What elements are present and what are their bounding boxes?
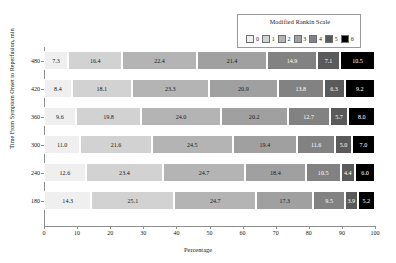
legend-item-0[interactable]: 0	[246, 35, 259, 43]
legend-label-1: 1	[272, 35, 275, 43]
legend-label-0: 0	[256, 35, 259, 43]
bar-segment-mrs-6[interactable]: 9.2	[345, 79, 375, 98]
bar-row: 12.623.424.718.410.54.46.0	[44, 163, 375, 182]
legend-title: Modified Rankin Scale	[238, 18, 362, 25]
legend-swatch-2	[278, 35, 286, 43]
bar-segment-mrs-0[interactable]: 8.4	[44, 79, 72, 98]
y-tick-label: 360	[16, 114, 40, 120]
x-tick-label: 80	[306, 230, 312, 236]
x-axis-label: Percentage	[0, 246, 396, 253]
bar-segment-mrs-5[interactable]: 6.3	[324, 79, 345, 98]
bar-segment-mrs-6[interactable]: 5.2	[358, 191, 375, 210]
y-tick-label: 240	[16, 170, 40, 176]
bar-segment-mrs-4[interactable]: 13.8	[278, 79, 324, 98]
bar-segment-mrs-1[interactable]: 21.6	[80, 135, 151, 154]
y-axis-label: Time From Symptom Onset to Reperfusion, …	[8, 14, 15, 164]
legend-swatch-6	[341, 35, 349, 43]
bar-segment-mrs-0[interactable]: 7.3	[44, 51, 68, 70]
legend-swatch-0	[246, 35, 254, 43]
y-tick-label: 300	[16, 142, 40, 148]
bar-segment-mrs-3[interactable]: 20.2	[221, 107, 288, 126]
legend-swatch-1	[262, 35, 270, 43]
bar-segment-mrs-3[interactable]: 17.3	[256, 191, 313, 210]
legend-label-3: 3	[303, 35, 306, 43]
x-tick-label: 70	[273, 230, 279, 236]
bar-segment-mrs-6[interactable]: 8.0	[348, 107, 374, 126]
legend-swatch-5	[325, 35, 333, 43]
bar-segment-mrs-4[interactable]: 14.9	[267, 51, 316, 70]
x-tick-label: 100	[371, 230, 380, 236]
x-tick-label: 0	[43, 230, 46, 236]
bar-segment-mrs-0[interactable]: 12.6	[44, 163, 86, 182]
bar-segment-mrs-5[interactable]: 5.7	[330, 107, 349, 126]
bar-segment-mrs-5[interactable]: 3.9	[345, 191, 358, 210]
bar-segment-mrs-1[interactable]: 23.4	[86, 163, 163, 182]
legend-label-5: 5	[335, 35, 338, 43]
bar-segment-mrs-4[interactable]: 12.7	[288, 107, 330, 126]
x-tick	[342, 226, 343, 229]
legend-label-4: 4	[319, 35, 322, 43]
bar-segment-mrs-6[interactable]: 10.5	[340, 51, 375, 70]
bar-segment-mrs-2[interactable]: 24.0	[141, 107, 220, 126]
x-tick	[176, 226, 177, 229]
bar-segment-mrs-6[interactable]: 7.0	[352, 135, 375, 154]
bar-segment-mrs-2[interactable]: 24.5	[152, 135, 233, 154]
legend-items: 0123456	[238, 32, 362, 46]
bar-row: 9.619.824.020.212.75.78.0	[44, 107, 375, 126]
x-tick	[110, 226, 111, 229]
x-tick-label: 20	[107, 230, 113, 236]
x-tick-label: 50	[207, 230, 213, 236]
bar-segment-mrs-2[interactable]: 24.7	[163, 163, 245, 182]
bar-segment-mrs-3[interactable]: 20.9	[209, 79, 278, 98]
legend-item-2[interactable]: 2	[278, 35, 291, 43]
bar-segment-mrs-0[interactable]: 11.0	[44, 135, 80, 154]
bar-segment-mrs-2[interactable]: 24.7	[174, 191, 256, 210]
x-tick	[309, 226, 310, 229]
x-tick	[243, 226, 244, 229]
x-tick-label: 90	[339, 230, 345, 236]
legend-label-2: 2	[288, 35, 291, 43]
legend-item-1[interactable]: 1	[262, 35, 275, 43]
legend-item-5[interactable]: 5	[325, 35, 338, 43]
bar-row: 11.021.624.519.411.65.07.0	[44, 135, 375, 154]
bar-segment-mrs-2[interactable]: 22.4	[122, 51, 196, 70]
x-tick	[143, 226, 144, 229]
bar-segment-mrs-4[interactable]: 11.6	[297, 135, 335, 154]
bar-row: 8.418.123.320.913.86.39.2	[44, 79, 375, 98]
bar-segment-mrs-6[interactable]: 6.0	[355, 163, 375, 182]
bar-segment-mrs-1[interactable]: 19.8	[76, 107, 142, 126]
x-tick-label: 40	[173, 230, 179, 236]
legend: Modified Rankin Scale 0123456	[237, 14, 361, 48]
legend-item-3[interactable]: 3	[294, 35, 307, 43]
bar-segment-mrs-1[interactable]: 25.1	[91, 191, 174, 210]
bar-segment-mrs-5[interactable]: 5.0	[335, 135, 352, 154]
bar-segment-mrs-3[interactable]: 21.4	[197, 51, 268, 70]
x-tick	[276, 226, 277, 229]
bar-segment-mrs-2[interactable]: 23.3	[132, 79, 209, 98]
bar-segment-mrs-0[interactable]: 14.3	[44, 191, 91, 210]
y-tick-label: 480	[16, 58, 40, 64]
x-tick	[210, 226, 211, 229]
bar-segment-mrs-0[interactable]: 9.6	[44, 107, 76, 126]
x-tick	[77, 226, 78, 229]
x-tick	[44, 226, 45, 229]
bar-segment-mrs-3[interactable]: 19.4	[233, 135, 297, 154]
bar-segment-mrs-3[interactable]: 18.4	[245, 163, 306, 182]
x-tick-label: 10	[74, 230, 80, 236]
bar-segment-mrs-1[interactable]: 18.1	[72, 79, 132, 98]
legend-item-4[interactable]: 4	[309, 35, 322, 43]
bar-segment-mrs-5[interactable]: 7.1	[317, 51, 341, 70]
y-tick-label: 420	[16, 86, 40, 92]
legend-swatch-3	[294, 35, 302, 43]
legend-item-6[interactable]: 6	[341, 35, 354, 43]
y-tick-label: 180	[16, 198, 40, 204]
legend-label-6: 6	[351, 35, 354, 43]
bar-segment-mrs-4[interactable]: 9.5	[313, 191, 344, 210]
bar-segment-mrs-5[interactable]: 4.4	[341, 163, 356, 182]
x-tick	[375, 226, 376, 229]
legend-swatch-4	[309, 35, 317, 43]
chart-root: Modified Rankin Scale 0123456 0102030405…	[0, 0, 396, 263]
bar-row: 7.316.422.421.414.97.110.5	[44, 51, 375, 70]
bar-segment-mrs-4[interactable]: 10.5	[306, 163, 341, 182]
bar-segment-mrs-1[interactable]: 16.4	[68, 51, 122, 70]
